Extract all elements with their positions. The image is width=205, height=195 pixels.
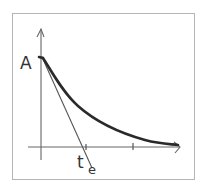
label-A: A (20, 53, 32, 73)
label-t: t (77, 152, 84, 172)
label-subscript-e: e (88, 162, 96, 177)
y-axis (37, 29, 44, 160)
decay-diagram: A t e (0, 0, 205, 195)
decay-curve (39, 57, 178, 145)
